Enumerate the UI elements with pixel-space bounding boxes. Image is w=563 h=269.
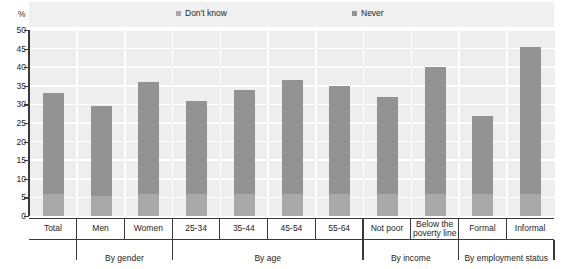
y-axis-tick-mark [24, 123, 29, 124]
category-separator [506, 218, 507, 240]
x-axis-category-label: 25-34 [172, 218, 220, 240]
square-swatch-icon [176, 11, 181, 16]
y-axis-tick-mark [24, 160, 29, 161]
category-separator [267, 218, 268, 240]
y-axis-tick-mark [24, 30, 29, 31]
bar [520, 47, 541, 216]
vertical-gridline [506, 30, 508, 216]
bar-segment-dont-know [43, 194, 64, 216]
y-axis-tick-mark [24, 142, 29, 143]
vertical-gridline [363, 30, 365, 216]
bar-segment-dont-know [520, 194, 541, 216]
category-separator [410, 218, 411, 240]
square-swatch-icon [352, 11, 357, 16]
bar-segment-never [186, 101, 207, 194]
bar [43, 93, 64, 216]
bar [186, 101, 207, 216]
bar-segment-never [282, 80, 303, 193]
category-separator [219, 218, 220, 240]
y-axis-tick-mark [24, 197, 29, 198]
legend-label-never: Never [361, 8, 384, 18]
vertical-gridline [220, 30, 222, 216]
category-separator [315, 218, 316, 240]
bar-segment-dont-know [472, 194, 493, 216]
x-axis-group-label: By age [172, 253, 363, 263]
chart-legend: Don't know Never [29, 2, 554, 27]
category-separator [458, 218, 459, 240]
bar-segment-never [138, 82, 159, 194]
x-axis-category-label: Not poor [363, 218, 411, 240]
x-axis-group-label: By income [363, 253, 458, 263]
bar [472, 116, 493, 216]
x-axis-category-label: 55-64 [315, 218, 363, 240]
vertical-gridline [267, 30, 269, 216]
bar [282, 80, 303, 216]
bar [329, 86, 350, 216]
category-separator [76, 218, 77, 240]
y-axis-tick-mark [24, 49, 29, 50]
plot-area [30, 30, 555, 216]
vertical-gridline [411, 30, 413, 216]
bar-segment-never [425, 67, 446, 193]
bar-segment-dont-know [234, 194, 255, 216]
horizontal-gridline [30, 48, 555, 50]
group-separator [458, 240, 459, 260]
bar-segment-dont-know [329, 194, 350, 216]
bar-segment-never [43, 93, 64, 193]
group-separator [172, 240, 173, 260]
legend-item-dont-know: Don't know [176, 8, 227, 18]
bar-segment-dont-know [91, 196, 112, 216]
bar-segment-dont-know [186, 194, 207, 216]
plot-area-wrapper: 05101520253035404550 [0, 27, 563, 218]
chart-container: % Don't know Never 05101520253035404550 … [0, 0, 563, 269]
x-axis-category-row: TotalMenWomen25-3435-4445-5455-64Not poo… [29, 218, 554, 240]
horizontal-gridline [30, 30, 555, 31]
bar-segment-never [91, 106, 112, 195]
vertical-gridline [458, 30, 460, 216]
group-separator [553, 240, 554, 260]
horizontal-gridline [30, 66, 555, 68]
vertical-gridline [76, 30, 78, 216]
y-axis-unit-label: % [18, 9, 26, 19]
bar [425, 67, 446, 216]
category-separator [124, 218, 125, 240]
bar-segment-never [520, 47, 541, 194]
x-axis-category-label: 45-54 [268, 218, 316, 240]
x-axis-category-label: Informal [506, 218, 554, 240]
bar [234, 90, 255, 216]
bar-segment-never [234, 90, 255, 194]
bar-segment-dont-know [282, 194, 303, 216]
bar [377, 97, 398, 216]
category-separator [362, 218, 363, 240]
x-axis-group-row: By genderBy ageBy incomeBy employment st… [29, 240, 554, 269]
bar [138, 82, 159, 216]
legend-label-dont-know: Don't know [185, 8, 227, 18]
bar [91, 106, 112, 216]
y-axis-tick-mark [24, 179, 29, 180]
y-axis-tick-mark [24, 216, 29, 217]
group-separator [362, 240, 363, 260]
legend-item-never: Never [352, 8, 384, 18]
group-separator [76, 240, 77, 260]
bar-segment-never [377, 97, 398, 194]
vertical-gridline [124, 30, 126, 216]
bar-segment-dont-know [138, 194, 159, 216]
vertical-gridline [172, 30, 174, 216]
y-axis-tick-mark [24, 67, 29, 68]
bar-segment-dont-know [377, 194, 398, 216]
y-axis-tick-mark [24, 86, 29, 87]
x-axis-category-label: Below the poverty line [411, 218, 459, 240]
bar-segment-never [472, 116, 493, 194]
x-axis-category-label: Total [29, 218, 77, 240]
bar-segment-never [329, 86, 350, 194]
x-axis-category-label: Men [77, 218, 125, 240]
y-axis-tick-mark [24, 104, 29, 105]
vertical-gridline [315, 30, 317, 216]
category-separator [172, 218, 173, 240]
bar-segment-dont-know [425, 194, 446, 216]
y-axis-tick-labels: 05101520253035404550 [0, 27, 26, 218]
x-axis-category-label: Women [124, 218, 172, 240]
x-axis-category-label: 35-44 [220, 218, 268, 240]
x-axis-group-label: By gender [77, 253, 172, 263]
x-axis-category-label: Formal [459, 218, 507, 240]
